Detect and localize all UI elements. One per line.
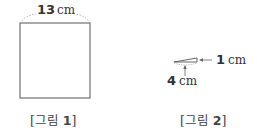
dimension-arc-left [20, 14, 36, 23]
caption-bracket: ] [72, 113, 77, 128]
height-label-unit: cm [228, 53, 246, 67]
dimension-arc-right [75, 14, 90, 23]
figure1-caption: [그림 1] [30, 110, 76, 129]
height-label-number: 1 [216, 52, 225, 67]
base-label-number: 4 [167, 73, 176, 88]
base-dimension-arc [174, 63, 197, 65]
width-label-number: 13 [37, 2, 55, 17]
caption-bracket: ] [222, 113, 227, 128]
base-label-unit: cm [179, 74, 197, 88]
width-label-unit: cm [57, 3, 75, 17]
base-label: 4cm [167, 73, 197, 88]
base-arrow-head [183, 65, 186, 69]
caption-number: 2 [213, 113, 222, 128]
square-shape [20, 23, 90, 98]
figure2-caption: [그림 2] [180, 110, 226, 129]
caption-number: 1 [63, 113, 72, 128]
height-label: 1cm [216, 52, 246, 67]
width-label: 13cm [37, 2, 75, 17]
caption-text: [그림 [30, 113, 63, 128]
height-arrow-head [199, 58, 203, 61]
caption-text: [그림 [180, 113, 213, 128]
triangle-shape [174, 58, 197, 62]
